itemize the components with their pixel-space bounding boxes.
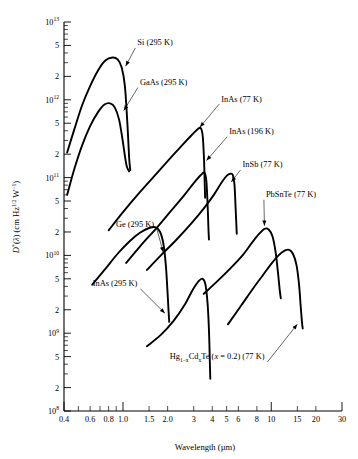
y-tick-label: 1012	[45, 94, 59, 105]
y-tick-label: 1011	[45, 172, 59, 183]
leader-line	[267, 324, 297, 362]
y-tick-label: 5	[55, 275, 59, 284]
x-axis-ticks	[64, 402, 342, 411]
y-tick-label: 2	[55, 150, 59, 159]
curve-label: InAs (295 K)	[93, 279, 138, 288]
x-tick-label: 4	[210, 415, 214, 424]
x-tick-label: 0.8	[104, 415, 114, 424]
curve-hg1-xcdxte-x-0-2-77-k	[228, 250, 303, 329]
x-tick-label: 3	[192, 415, 196, 424]
curve-annotations: Si (295 K)GaAs (295 K)InAs (77 K)InAs (1…	[93, 38, 317, 362]
curve-insb-77-k	[147, 174, 237, 270]
curve-label: InAs (196 K)	[229, 127, 274, 136]
y-tick-label: 5	[55, 41, 59, 50]
curve-label: GaAs (295 K)	[140, 78, 188, 87]
leader-arrowhead	[262, 221, 266, 226]
curve-label: Si (295 K)	[137, 38, 173, 47]
x-tick-label: 0.6	[85, 415, 95, 424]
x-tick-label: 8	[255, 415, 259, 424]
y-tick-label: 5	[55, 119, 59, 128]
y-tick-label: 2	[55, 306, 59, 315]
x-tick-label: 1.5	[144, 415, 154, 424]
curve-label: PbSnTe (77 K)	[266, 190, 316, 199]
curve-label: Hg1−xCdxTe (x = 0.2) (77 K)	[170, 352, 265, 362]
x-tick-label: 10	[267, 415, 275, 424]
y-tick-label: 2	[55, 384, 59, 393]
detectivity-chart-svg: 10135210125210115210105210952108 0.40.60…	[0, 0, 358, 459]
y-tick-label: 2	[55, 228, 59, 237]
curve-label: Ge (295 K)	[116, 220, 154, 229]
x-tick-label: 2.0	[163, 415, 173, 424]
y-tick-label: 5	[55, 197, 59, 206]
x-tick-label: 6	[236, 415, 240, 424]
x-tick-label: 20	[312, 415, 320, 424]
curve-si-295-k	[67, 57, 130, 170]
y-axis-title-text: D*(λ) (cm Hz1/2 W−1)	[11, 181, 21, 254]
x-tick-labels: 0.40.60.81.01.52.03456810152030	[59, 415, 346, 424]
annotation-leader-lines	[124, 48, 298, 362]
leader-arrowhead	[126, 61, 130, 67]
y-tick-label: 1013	[45, 16, 59, 27]
x-tick-label: 1.0	[118, 415, 128, 424]
data-curves	[67, 57, 303, 378]
x-axis-title: Wavelength (µm)	[175, 442, 235, 452]
y-axis-ticks	[64, 22, 71, 411]
x-tick-label: 5	[225, 415, 229, 424]
y-axis-title: D*(λ) (cm Hz1/2 W−1)	[11, 181, 21, 254]
curve-label: InAs (77 K)	[221, 95, 262, 104]
y-tick-label: 5	[55, 353, 59, 362]
curve-inas-295-k	[147, 279, 210, 379]
y-tick-label: 2	[55, 72, 59, 81]
y-tick-labels: 10135210125210115210105210952108	[45, 16, 59, 416]
x-tick-label: 30	[338, 415, 346, 424]
x-tick-label: 0.4	[59, 415, 69, 424]
curve-ge-295-k	[92, 227, 169, 322]
curve-label: InSb (77 K)	[243, 160, 283, 169]
y-tick-label: 1010	[45, 250, 59, 261]
y-tick-label: 109	[48, 328, 59, 339]
leader-arrowhead	[160, 247, 164, 253]
curve-gaas-295-k	[67, 103, 129, 195]
y-tick-label: 108	[48, 405, 59, 416]
curve-pbsnte-77-k	[204, 228, 281, 298]
spectral-detectivity-figure: 10135210125210115210105210952108 0.40.60…	[0, 0, 358, 459]
leader-arrowhead	[293, 324, 298, 329]
x-tick-label: 15	[293, 415, 301, 424]
